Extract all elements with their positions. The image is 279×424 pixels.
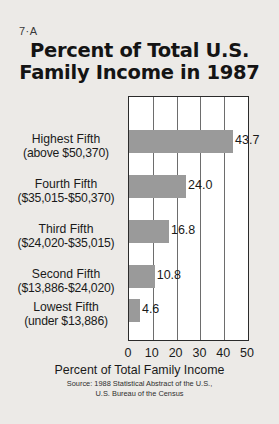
bar-value-third-fifth: 16.8 bbox=[171, 223, 195, 237]
category-label-second-fifth: Second Fifth ($13,886-$24,020) bbox=[8, 267, 124, 295]
category-label-line-2: ($35,015-$50,370) bbox=[8, 191, 124, 205]
bar-value-second-fifth: 10.8 bbox=[157, 268, 181, 282]
category-label-line-2: ($24,020-$35,015) bbox=[8, 236, 124, 250]
x-axis-title: Percent of Total Family Income bbox=[0, 363, 279, 377]
bar-value-lowest-fifth: 4.6 bbox=[142, 302, 159, 316]
category-label-line-1: Second Fifth bbox=[8, 267, 124, 281]
bar-third-fifth bbox=[129, 220, 169, 243]
xtick-label-40: 40 bbox=[213, 346, 233, 360]
source-line-1: Source: 1988 Statistical Abstract of the… bbox=[0, 379, 279, 389]
category-label-line-1: Third Fifth bbox=[8, 222, 124, 236]
bar-value-fourth-fifth: 24.0 bbox=[188, 178, 212, 192]
xtick-label-10: 10 bbox=[142, 346, 162, 360]
figure-container: 7·A Percent of Total U.S. Family Income … bbox=[0, 0, 279, 424]
category-label-line-2: ($13,886-$24,020) bbox=[8, 281, 124, 295]
xtick-label-20: 20 bbox=[166, 346, 186, 360]
bar-second-fifth bbox=[129, 265, 155, 288]
xtick-label-30: 30 bbox=[189, 346, 209, 360]
category-label-lowest-fifth: Lowest Fifth (under $13,886) bbox=[8, 300, 124, 328]
xtick-label-50: 50 bbox=[237, 346, 257, 360]
category-label-line-1: Highest Fifth bbox=[8, 132, 124, 146]
bar-fourth-fifth bbox=[129, 175, 186, 198]
bar-lowest-fifth bbox=[129, 299, 140, 322]
xtick-label-0: 0 bbox=[118, 346, 138, 360]
category-label-fourth-fifth: Fourth Fifth ($35,015-$50,370) bbox=[8, 177, 124, 205]
category-label-line-2: (above $50,370) bbox=[8, 146, 124, 160]
category-label-highest-fifth: Highest Fifth (above $50,370) bbox=[8, 132, 124, 160]
source-note: Source: 1988 Statistical Abstract of the… bbox=[0, 379, 279, 398]
category-label-line-2: (under $13,886) bbox=[8, 314, 124, 328]
category-label-line-1: Fourth Fifth bbox=[8, 177, 124, 191]
bar-highest-fifth bbox=[129, 130, 233, 153]
plot-area-wrapper: Highest Fifth (above $50,370) Fourth Fif… bbox=[0, 0, 279, 424]
category-label-third-fifth: Third Fifth ($24,020-$35,015) bbox=[8, 222, 124, 250]
bar-value-highest-fifth: 43.7 bbox=[235, 133, 259, 147]
category-label-line-1: Lowest Fifth bbox=[8, 300, 124, 314]
source-line-2: U.S. Bureau of the Census bbox=[0, 389, 279, 399]
